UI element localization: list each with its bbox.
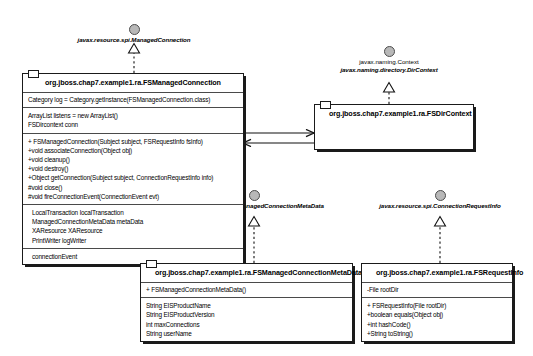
compartment-operations: + FSRequestInfo(File rootDir) +boolean e… xyxy=(362,297,512,341)
uml-diagram-canvas: javax.resource.spi.ManagedConnection jav… xyxy=(0,0,533,356)
interface-connection-request-info: javax.resource.spi.ConnectionRequestInfo xyxy=(367,190,513,210)
member: connectionEvent xyxy=(28,252,239,261)
compartment-static-fields: Category log = Category.getInstance(FSMa… xyxy=(23,92,243,107)
member: ArrayList listens = new ArrayList() xyxy=(28,111,239,120)
member: + FSRequestInfo(File rootDir) xyxy=(367,301,508,310)
member: int maxConnections xyxy=(146,320,348,329)
member: #void close() xyxy=(28,183,239,192)
class-title: org.jboss.chap7.example1.ra.FSManagedCon… xyxy=(141,264,352,282)
compartment-fields: String EISProductName String EISProductV… xyxy=(141,297,352,341)
interface-label-secondary: javax.naming.directory.DirContext xyxy=(299,66,479,74)
member: + FSManagedConnectionMetaData() xyxy=(146,285,348,294)
interface-label: javax.resource.spi.ConnectionRequestInfo xyxy=(367,202,513,210)
realization-dir-context xyxy=(384,83,395,105)
compartment-operations: + FSManagedConnectionMetaData() xyxy=(141,282,352,297)
member: #void fireConnectionEvent(ConnectionEven… xyxy=(28,192,239,201)
member: XAResource XAResource xyxy=(28,226,239,235)
interface-ball-icon xyxy=(129,24,140,35)
member: +int hashCode() xyxy=(367,320,508,329)
class-title: org.jboss.chap7.example1.ra.FSRequestInf… xyxy=(362,264,512,282)
member: ManagedConnectionMetaData metaData xyxy=(28,217,239,226)
member: String EISProductVersion xyxy=(146,310,348,319)
member: +String toString() xyxy=(367,329,508,338)
realization-managed-connection xyxy=(129,44,140,74)
compartment-operations: + FSManagedConnection(Subject subject, F… xyxy=(23,133,243,204)
class-fsmanagedconnection[interactable]: org.jboss.chap7.example1.ra.FSManagedCon… xyxy=(22,73,244,265)
member: FSDircontext conn xyxy=(28,120,239,129)
member: +void cleanup() xyxy=(28,155,239,164)
class-port-icon xyxy=(28,70,39,78)
compartment-associations: LocalTransaction localTransaction Manage… xyxy=(23,204,243,248)
compartment-fields: ArrayList listens = new ArrayList() FSDi… xyxy=(23,107,243,132)
member: PrintWriter logWriter xyxy=(28,236,239,245)
realization-metadata xyxy=(249,217,260,264)
interface-ball-icon xyxy=(384,46,395,57)
member: String EISProductName xyxy=(146,301,348,310)
class-title: org.jboss.chap7.example1.ra.FSDirContext xyxy=(315,105,473,123)
interface-ball-icon xyxy=(435,190,446,201)
class-fsrequestinfo[interactable]: org.jboss.chap7.example1.ra.FSRequestInf… xyxy=(361,263,513,342)
compartment-events: connectionEvent xyxy=(23,248,243,264)
interface-label: javax.resource.spi.ManagedConnection xyxy=(54,36,214,44)
realization-request-info xyxy=(435,217,446,264)
class-fsmanagedconnectionmetadata[interactable]: org.jboss.chap7.example1.ra.FSManagedCon… xyxy=(140,263,353,342)
member: + FSManagedConnection(Subject subject, F… xyxy=(28,137,239,146)
member: +void destroy() xyxy=(28,164,239,173)
class-port-icon xyxy=(146,260,157,268)
member: +boolean equals(Object obj) xyxy=(367,310,508,319)
member: -File rootDir xyxy=(367,285,508,294)
class-port-icon xyxy=(320,101,331,109)
interface-label-primary: javax.naming.Context xyxy=(299,58,479,66)
class-title: org.jboss.chap7.example1.ra.FSManagedCon… xyxy=(23,74,243,92)
compartment-fields: -File rootDir xyxy=(362,282,512,297)
interface-naming-context: javax.naming.Context javax.naming.direct… xyxy=(299,46,479,73)
member: +void associateConnection(Object obj) xyxy=(28,146,239,155)
member: +Object getConnection(Subject subject, C… xyxy=(28,173,239,182)
interface-ball-icon xyxy=(249,190,260,201)
member: LocalTransaction localTransaction xyxy=(28,208,239,217)
member: String userName xyxy=(146,329,348,338)
member: Category log = Category.getInstance(FSMa… xyxy=(28,95,239,104)
class-fsdircontext[interactable]: org.jboss.chap7.example1.ra.FSDirContext xyxy=(314,104,474,150)
interface-managed-connection: javax.resource.spi.ManagedConnection xyxy=(54,24,214,44)
